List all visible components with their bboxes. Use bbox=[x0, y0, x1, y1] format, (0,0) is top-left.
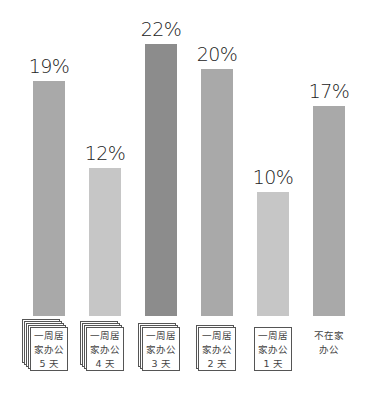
category-label: 一周居家办公5 天 bbox=[30, 329, 68, 371]
value-label: 20% bbox=[187, 43, 247, 65]
category-label: 一周居家办公4 天 bbox=[86, 329, 124, 371]
category-label: 一周居家办公1 天 bbox=[254, 329, 292, 371]
bar bbox=[257, 192, 289, 316]
value-label: 17% bbox=[299, 80, 359, 102]
bar bbox=[313, 106, 345, 316]
bar bbox=[33, 81, 65, 316]
category-label: 不在家办公 bbox=[310, 329, 348, 357]
bar bbox=[201, 69, 233, 316]
bar bbox=[145, 44, 177, 316]
value-label: 10% bbox=[243, 166, 303, 188]
value-label: 12% bbox=[75, 142, 135, 164]
category-label: 一周居家办公3 天 bbox=[142, 329, 180, 371]
value-label: 19% bbox=[19, 55, 79, 77]
value-label: 22% bbox=[131, 18, 191, 40]
bar bbox=[89, 168, 121, 316]
category-label: 一周居家办公2 天 bbox=[198, 329, 236, 371]
